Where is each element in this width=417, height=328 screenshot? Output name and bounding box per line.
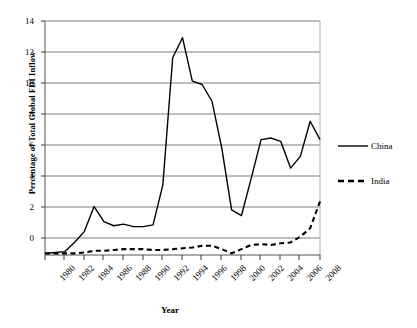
fdi-inflow-line-chart: Percentage of Total Global FDI Inflow Ye… (0, 0, 417, 328)
gridlines (45, 21, 320, 238)
y-axis-ticks (41, 21, 45, 238)
plot-canvas (0, 0, 417, 328)
legend-swatches (338, 146, 368, 181)
x-axis-ticks (45, 255, 320, 260)
series-line-china (45, 38, 320, 254)
axis-lines (45, 21, 320, 255)
